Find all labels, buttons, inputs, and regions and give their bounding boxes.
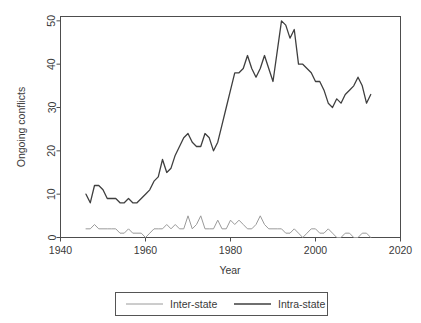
y-tick-label: 50 xyxy=(46,15,58,27)
legend-label-intra-state: Intra-state xyxy=(278,298,325,310)
chart-legend: Inter-state Intra-state xyxy=(116,293,328,316)
x-axis-ticks xyxy=(61,238,401,242)
series-intra-state xyxy=(86,21,371,203)
y-tick-label: 10 xyxy=(46,188,58,200)
x-tick-label: 2000 xyxy=(304,244,328,256)
series-lines xyxy=(86,21,371,238)
y-tick-label: 20 xyxy=(46,145,58,157)
plot-frame xyxy=(61,17,401,238)
series-inter-state xyxy=(86,216,371,238)
x-axis-title: Year xyxy=(219,264,241,276)
y-tick-label: 0 xyxy=(46,234,58,240)
chart-canvas: 01020304050 19401960198020002020 Ongoing… xyxy=(0,0,421,323)
x-tick-label: 1980 xyxy=(219,244,243,256)
conflicts-line-chart: 01020304050 19401960198020002020 Ongoing… xyxy=(0,0,421,323)
legend-label-inter-state: Inter-state xyxy=(170,298,217,310)
y-tick-label: 40 xyxy=(46,58,58,70)
x-axis-tick-labels: 19401960198020002020 xyxy=(49,244,413,256)
x-tick-label: 1940 xyxy=(49,244,73,256)
y-tick-label: 30 xyxy=(46,102,58,114)
x-tick-label: 1960 xyxy=(134,244,158,256)
y-axis-title: Ongoing conflicts xyxy=(15,87,27,168)
y-axis-tick-labels: 01020304050 xyxy=(46,15,58,241)
y-axis-ticks xyxy=(57,21,61,238)
x-tick-label: 2020 xyxy=(389,244,413,256)
